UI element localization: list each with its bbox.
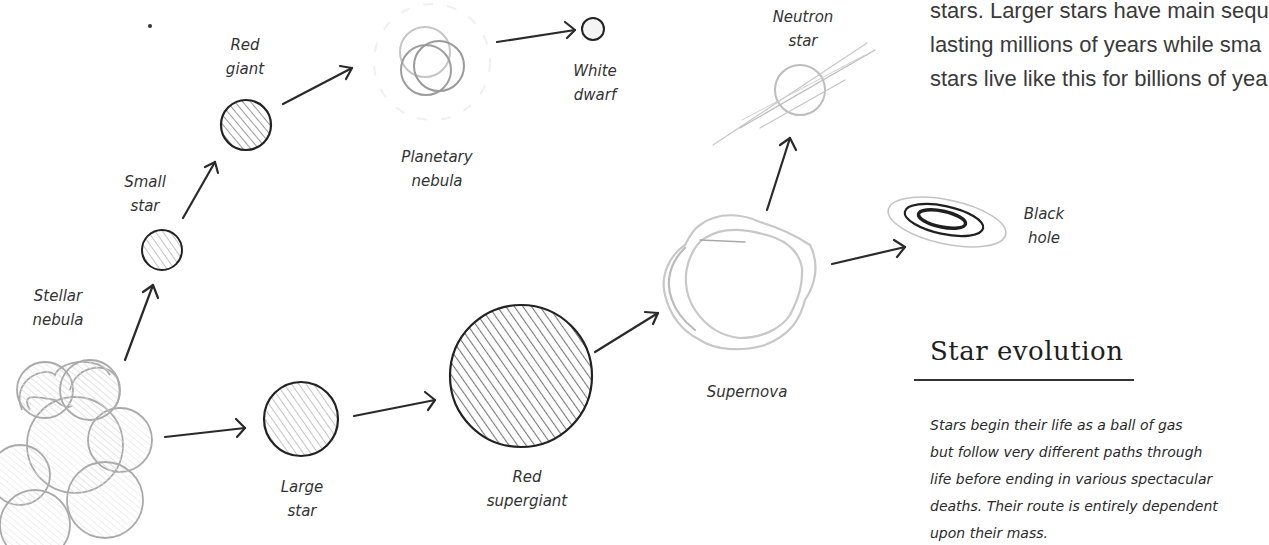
label-red-giant: Red giant — [226, 33, 264, 81]
large-star-icon — [264, 382, 338, 456]
speck-mark — [148, 24, 152, 28]
title-underline — [914, 379, 1134, 381]
label-large-star: Large star — [281, 475, 323, 523]
body-line: Stars begin their life as a ball of gas — [930, 412, 1218, 439]
label-neutron-star: Neutron star — [773, 5, 834, 53]
label-planetary-nebula: Planetary nebula — [401, 145, 472, 193]
body-line: life before ending in various spectacula… — [930, 466, 1218, 493]
label-red-supergiant: Red supergiant — [487, 465, 568, 513]
label-stellar-nebula: Stellar nebula — [32, 284, 83, 332]
body-line: but follow very different paths through — [930, 439, 1218, 466]
red-supergiant-icon — [450, 305, 592, 447]
label-white-dwarf: White dwarf — [573, 59, 617, 107]
body-line: deaths. Their route is entirely dependen… — [930, 493, 1218, 520]
supernova-icon — [664, 215, 816, 349]
small-star-icon — [142, 230, 182, 270]
intro-line: stars. Larger stars have main sequ — [930, 0, 1269, 28]
section-body: Stars begin their life as a ball of gas … — [930, 412, 1218, 545]
neutron-star-icon — [713, 43, 875, 145]
intro-paragraph: stars. Larger stars have main sequ lasti… — [930, 0, 1269, 96]
stellar-nebula-cloud-icon — [0, 360, 152, 545]
section-title: Star evolution — [930, 336, 1123, 366]
label-black-hole: Black hole — [1024, 202, 1065, 250]
red-giant-icon — [221, 100, 271, 150]
label-supernova: Supernova — [707, 380, 788, 404]
white-dwarf-icon — [582, 18, 604, 40]
planetary-nebula-icon — [374, 4, 490, 120]
label-small-star: Small star — [124, 170, 166, 218]
intro-line: stars live like this for billions of yea — [930, 62, 1269, 96]
intro-line: lasting millions of years while sma — [930, 28, 1269, 62]
body-line: upon their mass. — [930, 520, 1218, 545]
